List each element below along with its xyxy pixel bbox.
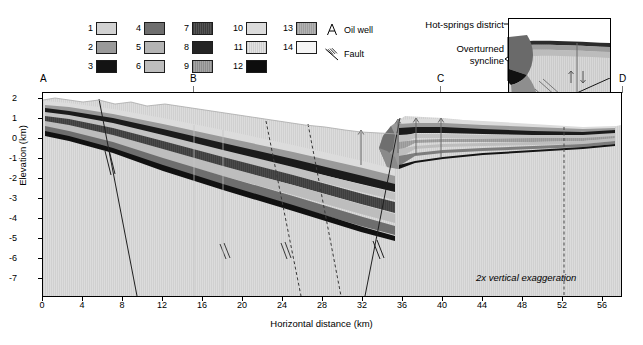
annotation-line-2: syncline	[400, 55, 504, 67]
legend: 1 2 3 4 5 6 7	[78, 20, 328, 74]
legend-symbol-oil-well[interactable]: Oil well	[324, 20, 382, 40]
figure-root: 1 2 3 4 5 6 7	[0, 0, 643, 345]
legend-item-label: 9	[174, 62, 192, 71]
legend-item-label: 5	[126, 43, 144, 52]
legend-item-label: 4	[126, 24, 144, 33]
cross-section-drawing	[43, 93, 621, 296]
legend-item-label: 6	[126, 62, 144, 71]
legend-swatch	[192, 22, 213, 35]
legend-item-label: 7	[174, 24, 192, 33]
y-tick-label: -5	[0, 234, 17, 243]
x-tick-label: 36	[387, 301, 417, 310]
legend-swatch	[246, 22, 267, 35]
x-tick-label: 40	[427, 301, 457, 310]
legend-item-label: 2	[78, 43, 96, 52]
legend-item-label: 12	[224, 62, 246, 71]
legend-symbol-label: Fault	[344, 50, 364, 59]
legend-item-7[interactable]: 7	[174, 20, 220, 36]
legend-item-2[interactable]: 2	[78, 39, 124, 55]
legend-item-13[interactable]: 13	[274, 20, 320, 36]
x-tick-label: 12	[147, 301, 177, 310]
legend-item-9[interactable]: 9	[174, 58, 220, 74]
x-tick-label: 56	[587, 301, 617, 310]
legend-item-label: 14	[274, 43, 296, 52]
x-tick-label: 20	[227, 301, 257, 310]
legend-symbols: Oil well Fault	[324, 20, 382, 74]
legend-item-4[interactable]: 4	[126, 20, 172, 36]
legend-swatch	[96, 60, 117, 73]
legend-item-1[interactable]: 1	[78, 20, 124, 36]
y-tick-label: -1	[0, 154, 17, 163]
section-marker-D: D	[619, 74, 626, 84]
legend-column-1: 1 2 3	[78, 20, 124, 74]
annotation-line-1: Overturned	[400, 43, 504, 55]
legend-swatch	[192, 60, 213, 73]
legend-swatch	[296, 41, 317, 54]
x-tick-label: 28	[307, 301, 337, 310]
y-tick-label: -6	[0, 254, 17, 263]
x-tick-label: 52	[547, 301, 577, 310]
section-marker-A: A	[40, 74, 47, 84]
legend-swatch	[144, 41, 165, 54]
y-tick-label: 0	[0, 134, 17, 143]
y-tick-label: 1	[0, 114, 17, 123]
section-marker-B: B	[190, 74, 197, 84]
annotation-overturned-syncline: Overturned syncline	[400, 43, 504, 67]
legend-swatch	[144, 60, 165, 73]
legend-swatch	[96, 22, 117, 35]
x-tick-label: 24	[267, 301, 297, 310]
legend-item-14[interactable]: 14	[274, 39, 320, 55]
x-tick-label: 32	[347, 301, 377, 310]
legend-column-3: 7 8 9	[174, 20, 220, 74]
cross-section-plot[interactable]	[42, 92, 622, 297]
legend-item-label: 11	[224, 43, 246, 52]
legend-item-label: 13	[274, 24, 296, 33]
legend-item-11[interactable]: 11	[224, 39, 270, 55]
vertical-exaggeration-note: 2x vertical exaggeration	[476, 272, 576, 283]
legend-item-3[interactable]: 3	[78, 58, 124, 74]
x-tick-label: 48	[507, 301, 537, 310]
legend-symbol-label: Oil well	[344, 26, 373, 35]
legend-column-2: 4 5 6	[126, 20, 172, 74]
x-tick-label: 16	[187, 301, 217, 310]
legend-swatch	[144, 22, 165, 35]
legend-swatch	[246, 41, 267, 54]
section-tick-D	[622, 86, 623, 93]
legend-item-5[interactable]: 5	[126, 39, 172, 55]
legend-item-label: 8	[174, 43, 192, 52]
legend-item-6[interactable]: 6	[126, 58, 172, 74]
y-tick-label: -2	[0, 174, 17, 183]
x-axis-label: Horizontal distance (km)	[0, 318, 643, 329]
legend-symbol-fault[interactable]: Fault	[324, 44, 382, 64]
y-tick-label: 2	[0, 94, 17, 103]
section-marker-C: C	[437, 74, 444, 84]
oil-well-icon	[324, 22, 340, 38]
x-tick-label: 4	[67, 301, 97, 310]
legend-item-8[interactable]: 8	[174, 39, 220, 55]
x-tick-label: 8	[107, 301, 137, 310]
y-tick-label: -7	[0, 274, 17, 283]
legend-item-label: 3	[78, 62, 96, 71]
annotation-hot-springs-district: Hot-springs district	[400, 19, 504, 31]
x-tick-label: 44	[467, 301, 497, 310]
y-tick-label: -4	[0, 214, 17, 223]
legend-item-label: 10	[224, 24, 246, 33]
legend-swatch	[296, 22, 317, 35]
legend-column-4: 10 11 12	[224, 20, 270, 74]
legend-item-10[interactable]: 10	[224, 20, 270, 36]
legend-swatch	[96, 41, 117, 54]
legend-column-5: 13 14	[274, 20, 320, 74]
legend-swatch	[246, 60, 267, 73]
legend-item-12[interactable]: 12	[224, 58, 270, 74]
fault-icon	[324, 46, 340, 62]
legend-swatch	[192, 41, 213, 54]
y-tick-label: -3	[0, 194, 17, 203]
y-axis-label: Elevation (km)	[17, 86, 28, 226]
legend-item-label: 1	[78, 24, 96, 33]
x-tick-label: 0	[27, 301, 57, 310]
